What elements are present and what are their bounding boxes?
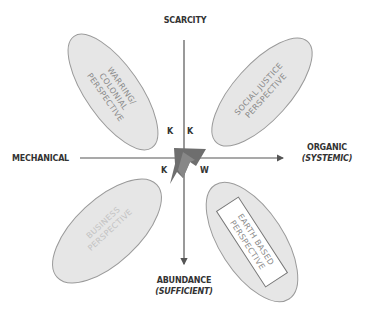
quadrant-letter-lower-left: K bbox=[161, 166, 167, 175]
perspectives-diagram: WARRING/ COLONIAL PERSPECTIVE SOCIAL JUS… bbox=[0, 0, 365, 315]
axis-label-bottom: ABUNDANCE (SUFFICIENT) bbox=[145, 275, 223, 297]
axis-label-mechanical: MECHANICAL bbox=[12, 154, 69, 163]
axis-label-organic: ORGANIC bbox=[307, 143, 347, 152]
ellipse-social-justice: SOCIAL JUSTICE PERSPECTIVE bbox=[196, 23, 329, 162]
axis-label-abundance: ABUNDANCE bbox=[157, 276, 212, 285]
axis-label-top: SCARCITY bbox=[150, 15, 220, 26]
quadrant-letter-upper-right: K bbox=[187, 127, 193, 136]
axis-sublabel-sufficient: (SUFFICIENT) bbox=[145, 286, 223, 297]
axis-label-left: MECHANICAL bbox=[12, 153, 78, 164]
axis-sublabel-systemic: (SYSTEMIC) bbox=[293, 153, 361, 164]
axis-label-right: ORGANIC (SYSTEMIC) bbox=[293, 142, 361, 164]
axis-label-scarcity: SCARCITY bbox=[164, 16, 206, 25]
quadrant-letter-lower-right: W bbox=[200, 166, 209, 175]
quadrant-letter-upper-left: K bbox=[167, 127, 173, 136]
ellipse-warring-colonial: WARRING/ COLONIAL PERSPECTIVE bbox=[52, 21, 174, 163]
